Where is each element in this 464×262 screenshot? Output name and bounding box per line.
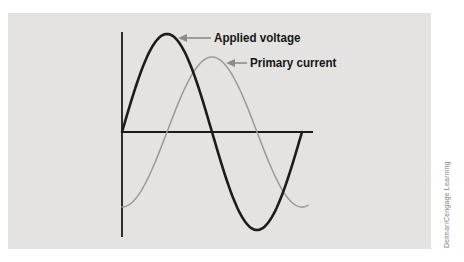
primary-current-label: Primary current [250, 56, 336, 70]
applied-voltage-arrowhead-icon [178, 34, 187, 42]
primary-current-arrowhead-icon [226, 59, 235, 67]
applied-voltage-arrow [178, 34, 211, 42]
figure-page: Applied voltage Primary current Delmar/C… [0, 0, 464, 262]
applied-voltage-label: Applied voltage [214, 31, 300, 45]
primary-current-arrow [226, 59, 247, 67]
credit-text: Delmar/Cengage Learning [442, 170, 451, 248]
